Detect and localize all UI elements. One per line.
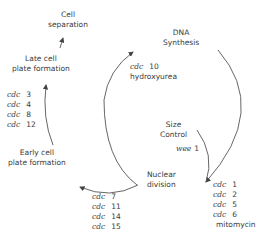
arrow-to-dna-synthesis bbox=[104, 52, 133, 100]
stage-dna-synthesis: DNA Synthesis bbox=[163, 28, 199, 48]
gene-cdc1: cdc1 bbox=[213, 180, 253, 190]
arc-left-lower bbox=[104, 100, 137, 185]
gene-cdc8: cdc8 bbox=[7, 110, 36, 120]
gene-cdc3: cdc3 bbox=[7, 90, 36, 100]
dna-gene-block: cdc10 hydroxyurea bbox=[130, 62, 177, 82]
arrow-to-cell-separation bbox=[60, 38, 63, 48]
gene-cdc7: cdc7 bbox=[92, 192, 121, 202]
gene-cdc12: cdc12 bbox=[7, 120, 36, 130]
gene-cdc4: cdc4 bbox=[7, 100, 36, 110]
gene-cdc5: cdc5 bbox=[213, 200, 253, 210]
arrow-size-control bbox=[197, 130, 209, 182]
gene-cdc2: cdc2 bbox=[213, 190, 253, 200]
stage-nuclear-division: Nuclear division bbox=[147, 170, 176, 190]
inhibitor-hydroxyurea: hydroxyurea bbox=[130, 72, 177, 82]
nuclear-gene-list: cdc1 cdc2 cdc5 cdc6 mitomycin bbox=[213, 180, 253, 230]
gene-cdc15: cdc15 bbox=[92, 222, 121, 232]
arrow-dna-to-nuclear bbox=[206, 50, 241, 182]
stage-size-control: Size Control bbox=[160, 120, 187, 140]
early-plate-gene-list: cdc7 cdc11 cdc14 cdc15 bbox=[92, 192, 121, 232]
gene-cdc11: cdc11 bbox=[92, 202, 121, 212]
stage-cell-separation: Cell separation bbox=[48, 10, 88, 30]
late-plate-gene-list: cdc3 cdc4 cdc8 cdc12 bbox=[7, 90, 36, 130]
gene-cdc14: cdc14 bbox=[92, 212, 121, 222]
arrow-early-to-late-plate bbox=[45, 85, 53, 145]
inhibitor-mitomycin: mitomycin bbox=[216, 220, 256, 230]
stage-late-plate-formation: Late cell plate formation bbox=[12, 54, 70, 74]
gene-cdc10: cdc10 bbox=[130, 62, 177, 72]
gene-wee1: wee1 bbox=[176, 144, 199, 154]
stage-early-plate-formation: Early cell plate formation bbox=[8, 148, 66, 168]
gene-cdc6: cdc6 bbox=[213, 210, 253, 220]
